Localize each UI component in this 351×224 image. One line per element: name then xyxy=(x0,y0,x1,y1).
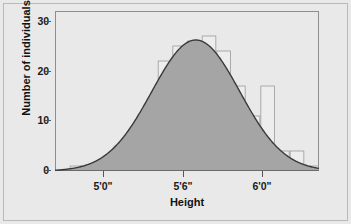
x-tick-mark-60 xyxy=(103,171,104,177)
y-tick-mark-0 xyxy=(45,170,51,171)
histogram-figure: 30 20 10 0 Number of individuals 5'0" 5'… xyxy=(0,0,351,224)
y-tick-mark-10 xyxy=(45,120,51,121)
normal-curve-shaded-area xyxy=(55,40,319,171)
x-axis-title: Height xyxy=(55,196,319,208)
plot-area xyxy=(55,11,319,171)
x-tick-label-72: 6'0" xyxy=(232,180,292,192)
x-tick-mark-66 xyxy=(183,171,184,177)
x-tick-label-66: 5'6" xyxy=(153,180,213,192)
y-tick-mark-30 xyxy=(45,21,51,22)
x-tick-label-60: 5'0" xyxy=(73,180,133,192)
normal-curve-group xyxy=(55,40,319,171)
y-tick-mark-20 xyxy=(45,71,51,72)
x-tick-mark-72 xyxy=(262,171,263,177)
y-axis-title: Number of individuals xyxy=(20,0,32,138)
